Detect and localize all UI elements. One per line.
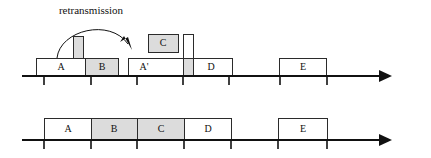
- received-label-b: B: [111, 123, 118, 134]
- segment-block-retry-gap-1: [74, 37, 84, 59]
- segment-label-e: E: [300, 61, 306, 72]
- retransmission-timeline-diagram: retransmission A B A' D C: [0, 0, 431, 158]
- segment-block-tall-gap: [184, 35, 194, 59]
- receiver-timeline: A B C D E: [22, 119, 392, 150]
- receiver-blocks: [45, 119, 328, 141]
- segment-label-c: C: [160, 37, 167, 48]
- segment-label-a: A: [57, 61, 65, 72]
- segment-label-b: B: [99, 61, 106, 72]
- segment-label-a-prime: A': [139, 61, 148, 72]
- retransmission-annotation: retransmission: [57, 4, 132, 58]
- sender-axis-arrowhead: [379, 70, 392, 82]
- segment-block-gap-2: [184, 59, 194, 77]
- sender-timeline: A B A' D C E: [22, 35, 392, 86]
- segment-label-d: D: [207, 61, 214, 72]
- received-label-c: C: [158, 123, 165, 134]
- retransmission-arc: [57, 30, 128, 58]
- receiver-axis-arrowhead: [379, 134, 392, 146]
- segment-block-a-prime: [129, 59, 184, 77]
- retransmission-label: retransmission: [59, 4, 124, 16]
- received-label-d: D: [204, 123, 211, 134]
- received-label-a: A: [64, 123, 72, 134]
- retransmission-arrowhead: [120, 36, 132, 50]
- sender-axis-ticks: [44, 76, 327, 85]
- sender-blocks: [37, 35, 327, 77]
- received-label-e: E: [300, 123, 306, 134]
- receiver-axis-ticks: [44, 140, 327, 149]
